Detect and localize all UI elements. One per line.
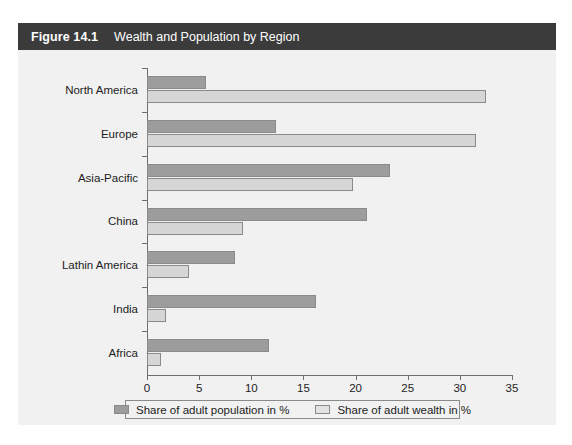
- bar-group: India: [147, 287, 519, 331]
- figure-title-label: Wealth and Population by Region: [114, 30, 299, 44]
- figure-header-bar: Figure 14.1 Wealth and Population by Reg…: [18, 23, 556, 50]
- bar-population: [147, 120, 276, 133]
- bar-wealth: [147, 353, 161, 366]
- legend-entry: Share of adult population in %: [114, 404, 289, 416]
- x-axis-tick: [460, 375, 461, 380]
- y-axis-tick: [142, 331, 147, 332]
- x-axis-tick-label: 15: [297, 382, 310, 394]
- x-axis-tick: [303, 375, 304, 380]
- bar-wealth: [147, 222, 243, 235]
- bar-population: [147, 339, 269, 352]
- x-axis-tick: [251, 375, 252, 380]
- y-axis-tick: [142, 156, 147, 157]
- x-axis-tick: [199, 375, 200, 380]
- bar-wealth: [147, 90, 486, 103]
- bar-population: [147, 208, 367, 221]
- bar-wealth: [147, 309, 166, 322]
- bar-group: Lathin America: [147, 243, 519, 287]
- legend-swatch-icon: [114, 405, 129, 414]
- x-axis-tick: [408, 375, 409, 380]
- bar-population: [147, 295, 316, 308]
- bar-group: China: [147, 200, 519, 244]
- x-axis-tick: [356, 375, 357, 380]
- category-label: Europe: [101, 128, 138, 140]
- legend-entry: Share of adult wealth in %: [315, 404, 471, 416]
- y-axis-tick: [142, 68, 147, 69]
- x-axis-tick: [512, 375, 513, 380]
- x-axis-tick-label: 10: [245, 382, 258, 394]
- bar-wealth: [147, 134, 476, 147]
- y-axis-tick: [142, 112, 147, 113]
- bar-group: Asia-Pacific: [147, 156, 519, 200]
- bar-wealth: [147, 178, 353, 191]
- figure-number-label: Figure 14.1: [31, 30, 98, 44]
- x-axis-tick: [147, 375, 148, 380]
- category-label: Asia-Pacific: [78, 172, 138, 184]
- bar-population: [147, 164, 390, 177]
- category-label: China: [108, 215, 138, 227]
- category-label: North America: [65, 84, 138, 96]
- legend-label: Share of adult wealth in %: [337, 404, 471, 416]
- category-label: Africa: [109, 347, 138, 359]
- legend-label: Share of adult population in %: [136, 404, 289, 416]
- x-axis-tick-label: 5: [196, 382, 202, 394]
- bar-population: [147, 251, 235, 264]
- y-axis-tick: [142, 243, 147, 244]
- chart-legend: Share of adult population in %Share of a…: [125, 400, 460, 419]
- bar-group: Europe: [147, 112, 519, 156]
- y-axis-tick: [142, 287, 147, 288]
- figure-container: Figure 14.1 Wealth and Population by Reg…: [0, 0, 572, 445]
- category-label: India: [113, 303, 138, 315]
- x-axis-tick-label: 30: [453, 382, 466, 394]
- bar-population: [147, 76, 206, 89]
- chart-panel: North AmericaEuropeAsia-PacificChinaLath…: [18, 50, 556, 425]
- legend-swatch-icon: [315, 405, 330, 414]
- x-axis-tick-label: 20: [349, 382, 362, 394]
- plot-area: North AmericaEuropeAsia-PacificChinaLath…: [147, 68, 519, 375]
- x-axis-tick-label: 35: [506, 382, 519, 394]
- bar-group: North America: [147, 68, 519, 112]
- bar-wealth: [147, 265, 189, 278]
- bar-group: Africa: [147, 331, 519, 375]
- category-label: Lathin America: [62, 259, 138, 271]
- x-axis-tick-label: 25: [401, 382, 414, 394]
- x-axis-line: [147, 375, 512, 376]
- y-axis-tick: [142, 200, 147, 201]
- x-axis-tick-label: 0: [144, 382, 150, 394]
